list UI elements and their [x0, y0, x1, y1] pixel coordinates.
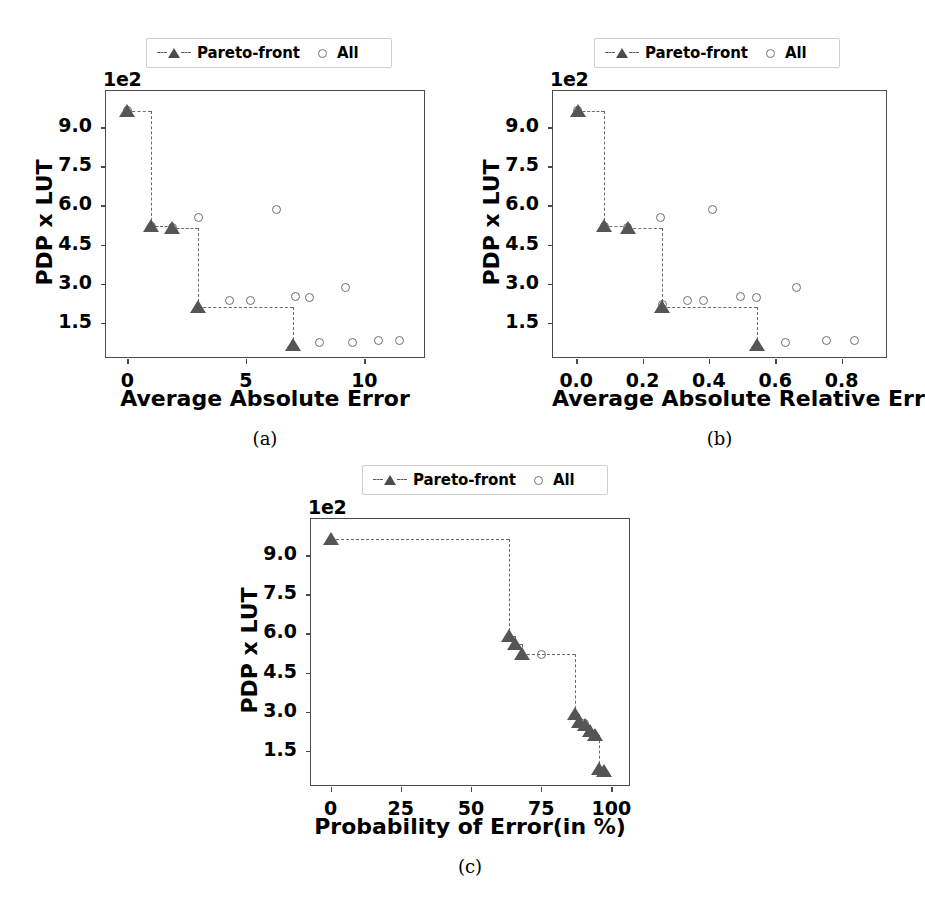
subplot-c: Pareto-front All 1e2 PDP x LUT 1.53.04.5…: [0, 450, 925, 902]
pareto-point-marker: [596, 764, 612, 777]
y-tick-mark: [101, 284, 106, 285]
pareto-step-horizontal: [198, 307, 293, 308]
y-tick-mark: [548, 166, 553, 167]
y-tick-mark: [548, 127, 553, 128]
caption-c: (c): [310, 856, 630, 877]
x-tick-mark: [364, 359, 365, 364]
all-point-marker: [752, 293, 761, 302]
plot-axes-c: 1.53.04.56.07.59.00255075100: [310, 518, 630, 786]
pareto-point-marker: [587, 728, 603, 741]
legend-c: Pareto-front All: [362, 465, 608, 495]
pareto-step-vertical: [575, 654, 576, 714]
pareto-point-marker: [749, 338, 765, 351]
legend-entry-all: All: [314, 44, 359, 62]
y-tick-label: 4.5: [237, 660, 297, 682]
y-tick-label: 9.0: [237, 542, 297, 564]
y-tick-label: 6.0: [237, 620, 297, 642]
legend-entry-pareto: Pareto-front: [157, 44, 300, 62]
all-point-marker: [656, 213, 665, 222]
legend-entry-all: All: [530, 471, 575, 489]
y-tick-label: 6.0: [479, 192, 539, 214]
dashed-line-triangle-icon: [373, 474, 407, 486]
x-tick-mark: [401, 787, 402, 792]
y-tick-mark: [548, 245, 553, 246]
y-tick-label: 3.0: [32, 271, 92, 293]
all-point-marker: [341, 283, 350, 292]
y-exponent-label-b: 1e2: [550, 68, 588, 90]
all-point-marker: [315, 338, 324, 347]
y-tick-label: 3.0: [237, 699, 297, 721]
legend-label-pareto: Pareto-front: [197, 44, 300, 62]
legend-entry-pareto: Pareto-front: [373, 471, 516, 489]
dashed-line-triangle-icon: [605, 47, 639, 59]
pareto-point-marker: [620, 221, 636, 234]
plot-area-b: 1.53.04.56.07.59.00.00.20.40.60.8: [553, 91, 886, 357]
y-tick-label: 9.0: [32, 114, 92, 136]
y-tick-mark: [101, 166, 106, 167]
legend-label-pareto: Pareto-front: [413, 471, 516, 489]
pareto-point-marker: [570, 104, 586, 117]
y-tick-label: 1.5: [479, 310, 539, 332]
y-tick-mark: [306, 712, 311, 713]
legend-label-all: All: [553, 471, 575, 489]
pareto-point-marker: [323, 532, 339, 545]
all-point-marker: [395, 336, 404, 345]
pareto-step-horizontal: [662, 307, 757, 308]
open-circle-icon: [766, 49, 775, 58]
open-circle-icon: [534, 476, 543, 485]
all-point-marker: [272, 205, 281, 214]
all-point-marker: [792, 283, 801, 292]
plot-axes-a: 1.53.04.56.07.59.00510: [105, 90, 425, 358]
all-point-marker: [850, 336, 859, 345]
y-exponent-label-c: 1e2: [308, 496, 346, 518]
x-axis-label-b: Average Absolute Relative Error: [552, 386, 887, 411]
legend-a: Pareto-front All: [146, 38, 392, 68]
all-point-marker: [246, 296, 255, 305]
y-tick-mark: [101, 245, 106, 246]
caption-a: (a): [105, 428, 425, 449]
y-tick-mark: [548, 284, 553, 285]
y-tick-label: 1.5: [32, 310, 92, 332]
all-point-marker: [305, 293, 314, 302]
y-tick-mark: [548, 205, 553, 206]
plot-area-a: 1.53.04.56.07.59.00510: [106, 91, 424, 357]
pareto-point-marker: [143, 219, 159, 232]
all-point-marker: [291, 292, 300, 301]
legend-entry-all: All: [762, 44, 807, 62]
all-point-marker: [736, 292, 745, 301]
plot-axes-b: 1.53.04.56.07.59.00.00.20.40.60.8: [552, 90, 887, 358]
legend-label-pareto: Pareto-front: [645, 44, 748, 62]
pareto-step-vertical: [509, 539, 510, 637]
y-tick-label: 6.0: [32, 192, 92, 214]
all-point-marker: [194, 213, 203, 222]
y-tick-label: 7.5: [479, 153, 539, 175]
all-point-marker: [822, 336, 831, 345]
figure-root: Pareto-front All 1e2 PDP x LUT 1.53.04.5…: [0, 0, 925, 902]
y-tick-label: 1.5: [237, 738, 297, 760]
all-point-marker: [348, 338, 357, 347]
pareto-point-marker: [190, 300, 206, 313]
x-tick-mark: [576, 359, 577, 364]
all-point-marker: [225, 296, 234, 305]
all-point-marker: [781, 338, 790, 347]
pareto-point-marker: [514, 647, 530, 660]
legend-entry-pareto: Pareto-front: [605, 44, 748, 62]
y-tick-mark: [306, 633, 311, 634]
x-tick-mark: [541, 787, 542, 792]
legend-label-all: All: [785, 44, 807, 62]
y-exponent-label-a: 1e2: [103, 68, 141, 90]
y-tick-mark: [306, 555, 311, 556]
pareto-step-vertical: [198, 228, 199, 307]
pareto-point-marker: [164, 221, 180, 234]
y-tick-mark: [306, 751, 311, 752]
y-tick-mark: [306, 673, 311, 674]
pareto-step-vertical: [604, 111, 605, 227]
pareto-point-marker: [119, 104, 135, 117]
x-tick-mark: [331, 787, 332, 792]
legend-label-all: All: [337, 44, 359, 62]
y-tick-mark: [101, 127, 106, 128]
all-point-marker: [537, 650, 546, 659]
open-circle-icon: [318, 49, 327, 58]
y-tick-label: 4.5: [32, 232, 92, 254]
y-tick-label: 3.0: [479, 271, 539, 293]
